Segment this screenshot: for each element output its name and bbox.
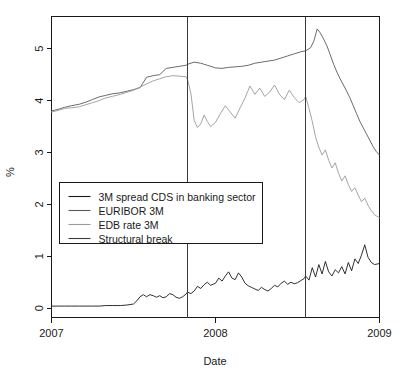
legend-label-euribor: EURIBOR 3M — [99, 205, 164, 217]
series-line-euribor — [52, 29, 380, 155]
x-axis-title: Date — [203, 355, 226, 367]
y-tick-label: 1 — [34, 253, 46, 259]
y-tick-label: 2 — [34, 201, 46, 207]
legend-label-edb: EDB rate 3M — [99, 219, 159, 231]
y-tick-label: 4 — [34, 98, 46, 104]
y-tick-label: 5 — [34, 46, 46, 52]
y-tick-label: 0 — [34, 305, 46, 311]
x-tick-label: 2008 — [203, 327, 227, 339]
plot-border — [52, 17, 380, 318]
chart-container: 012345 200720082009 % Date 3M spread CDS… — [0, 0, 399, 372]
legend-label-cds: 3M spread CDS in banking sector — [99, 191, 256, 203]
x-tick-label: 2007 — [39, 327, 63, 339]
legend-label-break: Structural break — [99, 233, 174, 245]
y-tick-label: 3 — [34, 149, 46, 155]
plot-frame — [52, 17, 380, 318]
structural-break-lines — [188, 17, 306, 318]
series-line-cds — [52, 245, 380, 306]
chart-legend: 3M spread CDS in banking sectorEURIBOR 3… — [60, 183, 263, 245]
x-tick-label: 2009 — [367, 327, 391, 339]
chart-plot: 012345 200720082009 % Date 3M spread CDS… — [0, 0, 399, 372]
y-axis-title: % — [4, 167, 16, 177]
x-axis: 200720082009 — [39, 318, 391, 339]
series-lines — [52, 29, 380, 306]
y-axis: 012345 — [34, 46, 52, 312]
